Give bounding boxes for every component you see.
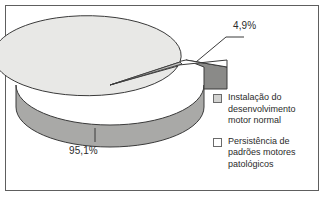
legend-item-label: Instalação do desenvolvimento motor norm… [228,92,296,127]
percentage-label-major: 95,1% [69,145,98,156]
pie-top-major [0,16,181,96]
legend-swatch-icon-filled [213,94,222,103]
legend-swatch-icon-empty [213,138,222,147]
legend-item-persistencia: Persistência de padrões motores patológi… [213,136,317,171]
percentage-label-minor: 4,9% [233,20,256,31]
legend-item-instalacao: Instalação do desenvolvimento motor norm… [213,92,317,127]
pie-chart-figure: 95,1% 4,9% Instalação do desenvolvimento… [0,0,326,199]
legend-item-label: Persistência de padrões motores patológi… [228,136,296,171]
leader-line-minor [196,37,244,62]
chart-legend: Instalação do desenvolvimento motor norm… [213,92,317,179]
